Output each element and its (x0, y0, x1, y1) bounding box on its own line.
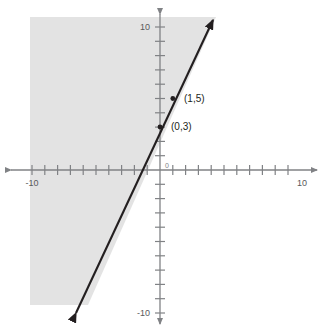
origin-label: 0 (165, 162, 169, 169)
point-marker-second (170, 96, 175, 101)
point-label-zero-three: (0,3) (171, 121, 192, 132)
y-axis-positive-label: 10 (140, 22, 150, 32)
point-marker-y-intercept (158, 125, 163, 130)
x-axis-positive-label: 10 (297, 178, 307, 188)
x-axis-negative-label: -10 (25, 178, 38, 188)
coordinate-plane-graph: -10 10 10 -10 0 (1,5) (0,3) (0, 0, 328, 332)
y-axis-negative-label: -10 (137, 308, 150, 318)
point-label-one-five: (1,5) (184, 93, 205, 104)
graph-svg: -10 10 10 -10 0 (1,5) (0,3) (0, 0, 328, 332)
solution-region-shading (30, 17, 216, 305)
